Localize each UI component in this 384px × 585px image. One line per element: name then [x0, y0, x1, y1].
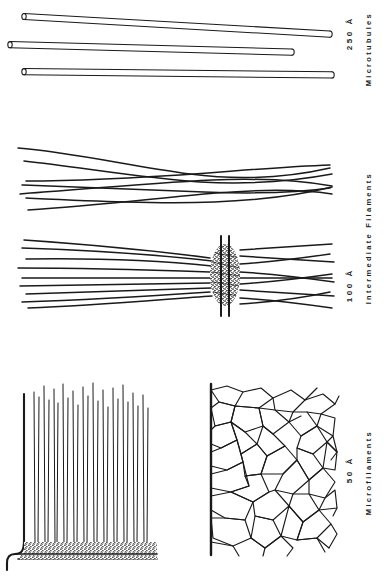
mf-core-svg [0, 372, 160, 585]
panel-mf-microvillus-core [0, 372, 160, 585]
mf-network-svg [205, 382, 340, 557]
group-label-microtubules: Microtubules [365, 12, 373, 86]
panel-microtubule-tubes [0, 0, 340, 105]
terminal-web [24, 542, 157, 554]
scale-label-intermediate-filaments: 100 Å [346, 268, 354, 302]
dense-plaque [210, 244, 240, 306]
microtubules-svg [0, 0, 340, 105]
scale-label-microfilaments: 50 Å [346, 456, 354, 483]
figure-canvas: 250 Å Microtubules [0, 0, 384, 585]
if-desmosome-svg [0, 228, 340, 328]
scale-label-microtubules: 250 Å [346, 16, 354, 50]
panel-if-wavy-bundle [0, 140, 340, 235]
if-wavy-svg [0, 140, 340, 235]
panel-if-desmosome [0, 228, 340, 328]
group-label-intermediate-filaments: Intermediate Filaments [365, 172, 373, 304]
group-label-microfilaments: Microfilaments [365, 430, 373, 515]
panel-mf-cortical-network [205, 382, 340, 557]
